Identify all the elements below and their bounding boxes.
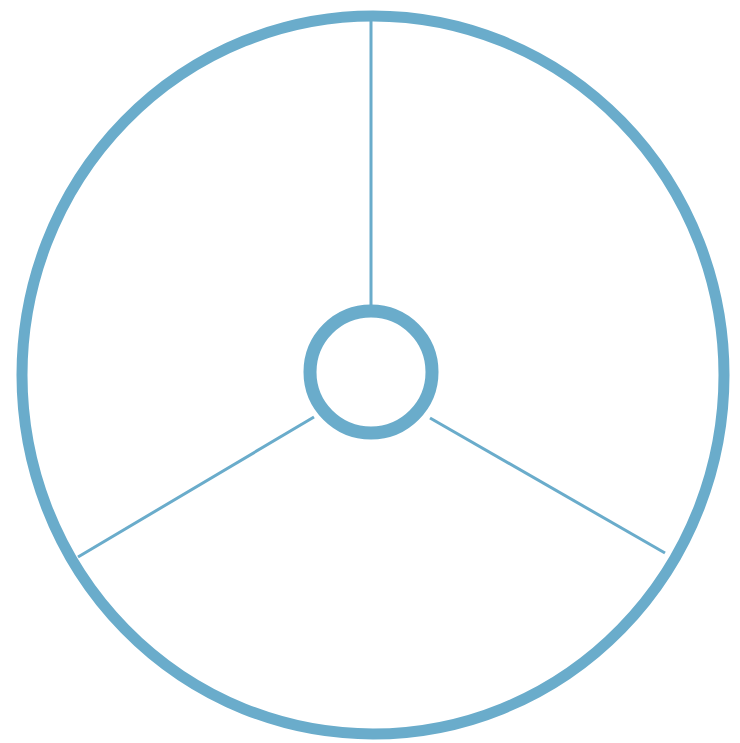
wheel-diagram [0, 0, 740, 743]
spoke-lower-right [430, 418, 665, 553]
inner-hub-ring [310, 311, 432, 433]
spoke-lower-left [78, 417, 314, 557]
